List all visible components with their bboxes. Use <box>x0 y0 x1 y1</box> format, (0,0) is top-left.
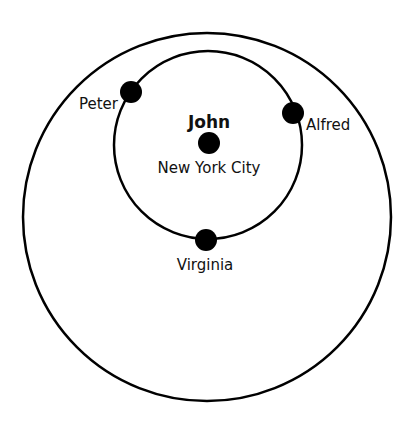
relationship-diagram: John New York City Peter Alfred Virginia <box>0 0 410 425</box>
virginia-label: Virginia <box>177 256 234 274</box>
new-york-city-label: New York City <box>158 159 261 177</box>
john-label: John <box>187 112 230 132</box>
john-node <box>198 132 220 154</box>
peter-label: Peter <box>79 95 119 113</box>
alfred-node <box>282 102 304 124</box>
alfred-label: Alfred <box>306 116 350 134</box>
outer-circle <box>23 33 391 401</box>
virginia-node <box>195 229 217 251</box>
peter-node <box>120 81 142 103</box>
